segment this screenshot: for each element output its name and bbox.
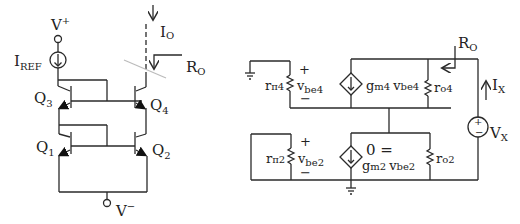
gm2-label: gm2vbe2 <box>362 158 415 173</box>
q3-label: Q3 <box>34 89 53 109</box>
vx-minus: − <box>475 127 483 138</box>
vminus-terminal <box>104 200 111 207</box>
vbe2-plus: + <box>300 134 311 149</box>
vx-label: VX <box>489 124 509 143</box>
ro-arrow-icon <box>154 55 182 68</box>
zero-equals-label: 0 = <box>366 141 393 159</box>
iref-label: IREF <box>14 52 42 72</box>
vplus-terminal <box>55 36 62 43</box>
ro-label-left: RO <box>186 58 206 77</box>
io-label: IO <box>160 23 174 41</box>
rpi2-label: rπ2 <box>266 151 285 166</box>
q2-label: Q2 <box>152 141 171 161</box>
rpi4-label: rπ4 <box>265 78 284 93</box>
ro4-label: ro4 <box>434 80 453 95</box>
vbe4-plus: + <box>299 62 310 77</box>
ground-icon-bottom <box>346 188 356 194</box>
vminus-label: V− <box>115 201 135 220</box>
q4-label: Q4 <box>150 96 169 116</box>
ground-icon-top <box>245 73 255 79</box>
ro2-resistor-icon <box>427 149 433 165</box>
ro-cut-line <box>124 60 166 78</box>
ix-label: IX <box>492 76 506 95</box>
current-mirror-schematic: V+ IREF Q3 Q4 IO RO <box>14 5 206 220</box>
rpi4-resistor-icon <box>287 75 293 91</box>
gm4-label: gm4vbe4 <box>366 78 419 93</box>
vbe2-label: vbe2 <box>297 151 324 168</box>
small-signal-model: rπ4 + − vbe4 gm4vbe4 ro4 RO IX + − VX <box>245 34 509 194</box>
q1-label: Q1 <box>36 138 55 158</box>
ro4-resistor-icon <box>425 80 431 96</box>
ro-arrow-icon-right <box>443 46 455 68</box>
rpi2-resistor-icon <box>288 148 294 164</box>
ro-label-right: RO <box>458 34 478 53</box>
vplus-label: V+ <box>50 15 70 34</box>
circuit-diagram: V+ IREF Q3 Q4 IO RO <box>0 0 520 224</box>
ro2-label: ro2 <box>436 151 455 166</box>
vx-plus: + <box>474 116 482 127</box>
vbe4-label: vbe4 <box>296 78 323 95</box>
